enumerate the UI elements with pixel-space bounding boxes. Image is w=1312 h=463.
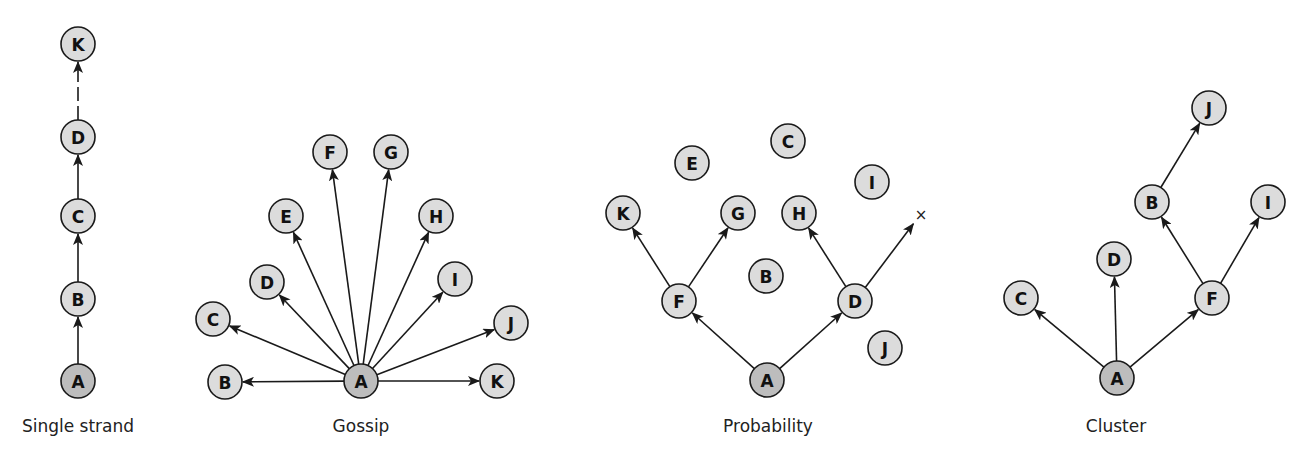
dead-end-mark: × <box>915 206 928 224</box>
node-c: C <box>771 124 805 158</box>
node-label: C <box>72 207 84 227</box>
node-label: C <box>207 310 219 330</box>
arrow-a-to-g <box>363 170 388 364</box>
node-e: E <box>269 199 303 233</box>
cluster-diagram: JBIDCFACluster <box>1004 91 1285 436</box>
arrow-a-to-d <box>1114 277 1116 361</box>
arrow-a-to-c <box>1035 310 1104 368</box>
node-h: H <box>782 196 816 230</box>
probability-caption: Probability <box>723 416 813 436</box>
arrow-a-to-f <box>692 313 754 369</box>
node-label: A <box>760 371 774 391</box>
node-h: H <box>419 199 453 233</box>
arrow-f-to-g <box>688 228 728 287</box>
node-label: K <box>71 35 85 55</box>
node-label: G <box>384 143 398 163</box>
arrow-d-to-h <box>809 228 846 286</box>
arrow-a-to-j <box>377 329 494 374</box>
node-i: I <box>438 262 472 296</box>
arrow-a-to-i <box>373 292 443 368</box>
node-label: B <box>760 267 773 287</box>
node-label: D <box>260 273 274 293</box>
node-d: D <box>61 120 95 154</box>
node-g: G <box>721 196 755 230</box>
node-label: H <box>792 204 806 224</box>
node-f: F <box>1195 281 1229 315</box>
node-label: F <box>1206 289 1218 309</box>
arrow-f-to-b <box>1162 217 1203 283</box>
single-strand-caption: Single strand <box>22 416 134 436</box>
node-d: D <box>838 284 872 318</box>
arrow-b-to-j <box>1161 123 1200 187</box>
arrow-a-to-e <box>293 232 354 365</box>
node-f: F <box>662 284 696 318</box>
node-label: B <box>72 290 85 310</box>
arrow-a-to-d <box>780 313 842 369</box>
node-label: G <box>731 204 745 224</box>
node-label: D <box>1107 250 1121 270</box>
probability-diagram: ×CEIKGHBFDJAProbability <box>606 124 927 436</box>
arrow-a-to-c <box>230 326 346 374</box>
node-d: D <box>1097 242 1131 276</box>
node-j: J <box>494 306 528 340</box>
node-label: E <box>686 154 698 174</box>
node-label: D <box>848 292 862 312</box>
node-label: A <box>354 372 368 392</box>
node-label: H <box>429 207 443 227</box>
node-d: D <box>250 265 284 299</box>
node-a: A <box>750 363 784 397</box>
node-c: C <box>1004 281 1038 315</box>
node-b: B <box>749 259 783 293</box>
gossip-caption: Gossip <box>333 416 390 436</box>
node-k: K <box>606 196 640 230</box>
node-j: J <box>1192 91 1226 125</box>
gossip-diagram: FGEHDICJBAKGossip <box>196 135 528 436</box>
node-b: B <box>208 365 242 399</box>
node-label: K <box>490 372 504 392</box>
arrow-f-to-i <box>1221 218 1259 284</box>
node-j: J <box>868 331 902 365</box>
node-i: I <box>1251 185 1285 219</box>
node-label: F <box>673 292 685 312</box>
node-label: D <box>71 128 85 148</box>
node-i: I <box>855 165 889 199</box>
node-label: K <box>616 204 630 224</box>
node-label: A <box>1110 369 1124 389</box>
node-label: E <box>280 207 292 227</box>
single-strand-diagram: KDCBASingle strand <box>22 27 134 436</box>
arrow-a-to-b <box>243 381 344 382</box>
node-b: B <box>61 282 95 316</box>
node-label: J <box>1205 99 1212 119</box>
node-label: B <box>1146 193 1159 213</box>
node-label: C <box>1015 289 1027 309</box>
node-label: I <box>452 270 458 290</box>
node-c: C <box>61 199 95 233</box>
node-a: A <box>61 364 95 398</box>
node-g: G <box>374 135 408 169</box>
node-label: C <box>782 132 794 152</box>
arrow-a-to-f <box>1130 310 1198 367</box>
node-label: A <box>71 372 85 392</box>
arrow-f-to-k <box>633 228 670 286</box>
arrow-a-to-f <box>332 170 358 364</box>
node-label: B <box>219 373 232 393</box>
node-b: B <box>1135 185 1169 219</box>
node-k: K <box>480 364 514 398</box>
node-a: A <box>1100 361 1134 395</box>
arrow-d-to-dead-end <box>865 224 913 288</box>
node-e: E <box>675 146 709 180</box>
cluster-caption: Cluster <box>1086 416 1146 436</box>
node-a: A <box>344 364 378 398</box>
gossip-protocol-diagrams: KDCBASingle strand FGEHDICJBAKGossip ×CE… <box>0 0 1312 463</box>
edges <box>1035 123 1259 367</box>
node-c: C <box>196 302 230 336</box>
node-label: I <box>869 173 875 193</box>
node-k: K <box>61 27 95 61</box>
node-label: J <box>881 339 888 359</box>
node-label: F <box>324 143 336 163</box>
node-label: J <box>507 314 514 334</box>
node-f: F <box>313 135 347 169</box>
node-label: I <box>1265 193 1271 213</box>
